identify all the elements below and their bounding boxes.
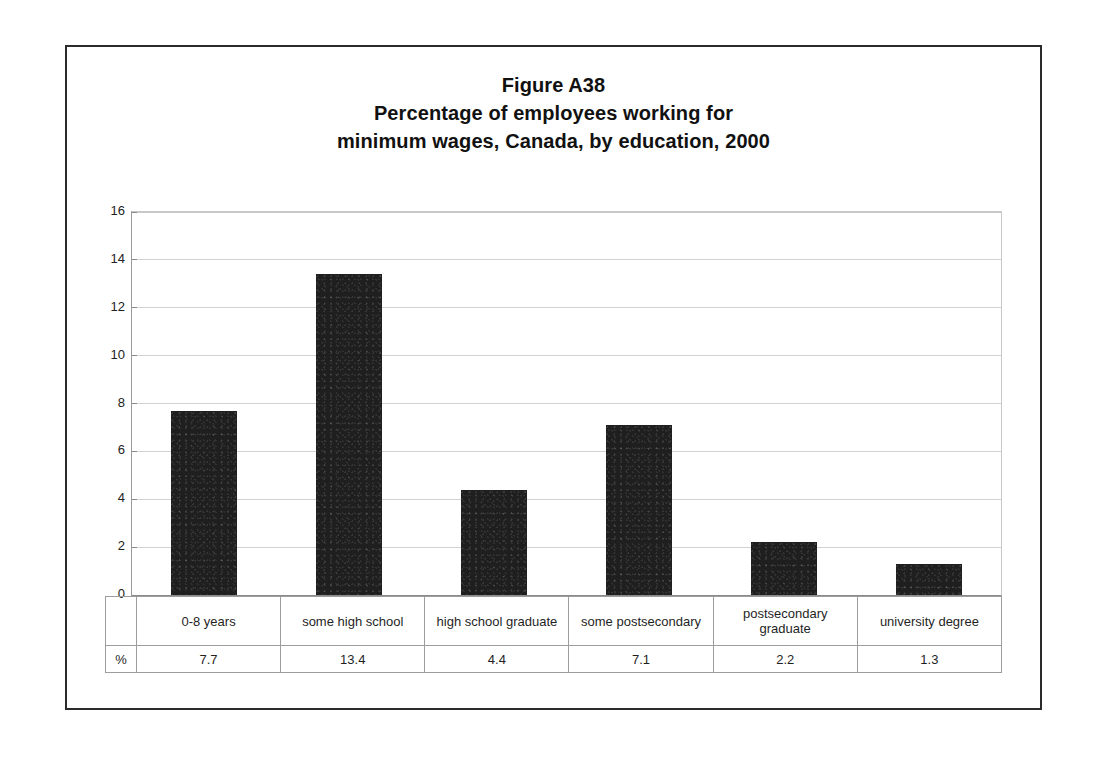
bar-some-high-school: [316, 274, 382, 595]
category-label-0-8-years: 0-8 years: [137, 597, 281, 646]
value-cell-postsecondary-graduate: 2.2: [713, 646, 857, 673]
y-tick-label-12: 12: [97, 300, 125, 313]
bar-0-8-years: [171, 411, 237, 595]
value-cell-high-school-graduate: 4.4: [425, 646, 569, 673]
y-tick-label-16: 16: [97, 204, 125, 217]
y-tick-label-10: 10: [97, 348, 125, 361]
value-cell-0-8-years: 7.7: [137, 646, 281, 673]
y-tick-label-4: 4: [97, 491, 125, 504]
bar-postsecondary-graduate: [751, 542, 817, 595]
y-tick-label-6: 6: [97, 443, 125, 456]
value-cell-some-high-school: 13.4: [281, 646, 425, 673]
category-label-university-degree: university degree: [857, 597, 1001, 646]
bar-university-degree: [896, 564, 962, 595]
bar-high-school-graduate: [461, 490, 527, 595]
category-label-some-high-school: some high school: [281, 597, 425, 646]
y-axis: 0246810121416: [87, 211, 125, 596]
table-row-values: %7.713.44.47.12.21.3: [106, 646, 1002, 673]
y-tick-label-8: 8: [97, 396, 125, 409]
plot-area: [131, 211, 1002, 596]
table-corner-cell: [106, 597, 137, 646]
figure-frame: Figure A38 Percentage of employees worki…: [65, 45, 1042, 710]
bars-layer: [132, 212, 1001, 595]
category-label-postsecondary-graduate: postsecondary graduate: [713, 597, 857, 646]
row-header-percent: %: [106, 646, 137, 673]
y-tick-label-14: 14: [97, 252, 125, 265]
y-tick-label-2: 2: [97, 539, 125, 552]
value-cell-university-degree: 1.3: [857, 646, 1001, 673]
category-value-table: 0-8 yearssome high schoolhigh school gra…: [105, 596, 1002, 673]
category-label-some-postsecondary: some postsecondary: [569, 597, 713, 646]
table-row-categories: 0-8 yearssome high schoolhigh school gra…: [106, 597, 1002, 646]
category-label-high-school-graduate: high school graduate: [425, 597, 569, 646]
value-cell-some-postsecondary: 7.1: [569, 646, 713, 673]
bar-some-postsecondary: [606, 425, 672, 595]
